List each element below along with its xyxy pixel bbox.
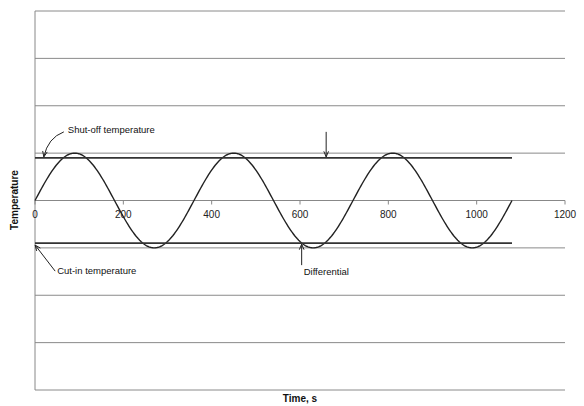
- x-axis-title: Time, s: [283, 393, 318, 404]
- shut-off-label: Shut-off temperature: [68, 124, 155, 135]
- x-tick-label: 600: [292, 209, 309, 220]
- x-tick-label: 1200: [554, 209, 577, 220]
- chart: 020040060080010001200 Shut-off temperatu…: [0, 0, 584, 406]
- cut-in-label: Cut-in temperature: [57, 265, 136, 276]
- x-tick-label: 400: [203, 209, 220, 220]
- y-axis-title: Temperature: [9, 170, 20, 230]
- x-ticks: 020040060080010001200: [32, 201, 576, 220]
- x-tick-label: 0: [32, 209, 38, 220]
- x-tick-label: 1000: [466, 209, 489, 220]
- differential-label: Differential: [304, 266, 349, 277]
- cut-in-arrow: [35, 245, 55, 271]
- x-tick-label: 800: [380, 209, 397, 220]
